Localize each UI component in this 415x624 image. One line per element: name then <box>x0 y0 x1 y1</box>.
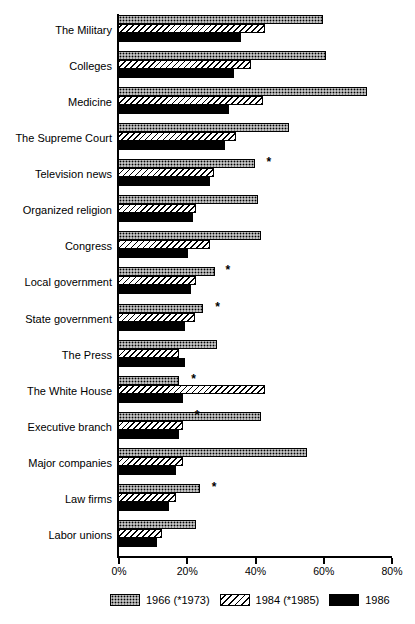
bar <box>118 421 183 430</box>
category-label: Labor unions <box>0 529 112 542</box>
category-label: Major companies <box>0 457 112 470</box>
bar <box>118 313 195 322</box>
bar <box>118 457 183 466</box>
category-label: Television news <box>0 168 112 181</box>
x-tick-label: 40% <box>245 565 266 577</box>
category-label: State government <box>0 313 112 326</box>
x-tick-label: 60% <box>313 565 334 577</box>
bar <box>118 249 188 258</box>
category-label: Organized religion <box>0 204 112 217</box>
category-label: The Supreme Court <box>0 132 112 145</box>
bar <box>118 304 203 313</box>
bar <box>118 69 234 78</box>
category-label: Law firms <box>0 493 112 506</box>
category-row: Law firms* <box>0 483 415 519</box>
category-label: Congress <box>0 240 112 253</box>
x-tick <box>186 558 188 564</box>
category-row: The Military <box>0 14 415 50</box>
legend-label: 1966 (*1973) <box>146 594 210 606</box>
category-row: Executive branch* <box>0 411 415 447</box>
category-label: Executive branch <box>0 421 112 434</box>
legend-label: 1986 <box>365 594 389 606</box>
bar <box>118 240 210 249</box>
legend-swatch <box>110 594 140 606</box>
bar <box>118 213 193 222</box>
bar-chart: 0%20%40%60%80% 1966 (*1973)1984 (*1985)1… <box>0 0 415 624</box>
bar <box>118 430 179 439</box>
bar <box>118 448 307 457</box>
category-row: The White House* <box>0 375 415 411</box>
bar <box>118 394 183 403</box>
x-tick <box>255 558 257 564</box>
bar <box>118 484 200 493</box>
category-row: The Supreme Court <box>0 122 415 158</box>
asterisk-annotation: * <box>225 264 230 276</box>
x-tick-label: 0% <box>111 565 126 577</box>
legend-item: 1966 (*1973) <box>110 594 210 606</box>
bar <box>118 132 236 141</box>
x-tick <box>323 558 325 564</box>
category-label: Medicine <box>0 96 112 109</box>
legend-item: 1984 (*1985) <box>220 594 320 606</box>
bar <box>118 493 176 502</box>
legend-swatch <box>329 594 359 606</box>
bar <box>118 358 185 367</box>
bar <box>118 60 251 69</box>
x-tick <box>391 558 393 564</box>
category-row: Colleges <box>0 50 415 86</box>
bar <box>118 349 179 358</box>
asterisk-annotation: * <box>191 373 196 385</box>
bar <box>118 24 265 33</box>
category-row: Major companies <box>0 447 415 483</box>
category-row: Medicine <box>0 86 415 122</box>
chart-legend: 1966 (*1973)1984 (*1985)1986 <box>110 594 390 606</box>
bar <box>118 376 179 385</box>
category-label: Local government <box>0 276 112 289</box>
bar <box>118 529 162 538</box>
category-row: Organized religion <box>0 194 415 230</box>
bar <box>118 276 196 285</box>
category-row: Labor unions <box>0 519 415 555</box>
bar <box>118 123 289 132</box>
bar <box>118 340 217 349</box>
bar <box>118 466 176 475</box>
category-label: Colleges <box>0 60 112 73</box>
bar <box>118 177 210 186</box>
bar <box>118 105 229 114</box>
category-label: The Military <box>0 24 112 37</box>
bar <box>118 502 169 511</box>
bar <box>118 285 191 294</box>
bar <box>118 87 367 96</box>
category-row: Congress <box>0 230 415 266</box>
category-row: Local government* <box>0 266 415 302</box>
category-row: Television news* <box>0 158 415 194</box>
bar <box>118 204 196 213</box>
bar <box>118 168 214 177</box>
x-tick <box>118 558 120 564</box>
bar <box>118 267 215 276</box>
bar <box>118 322 185 331</box>
asterisk-annotation: * <box>212 481 217 493</box>
legend-swatch <box>220 594 250 606</box>
bar <box>118 195 258 204</box>
bar <box>118 520 196 529</box>
bar <box>118 159 255 168</box>
asterisk-annotation: * <box>266 156 271 168</box>
bar <box>118 385 265 394</box>
legend-item: 1986 <box>329 594 389 606</box>
category-label: The Press <box>0 349 112 362</box>
bar <box>118 412 261 421</box>
bar <box>118 231 261 240</box>
asterisk-annotation: * <box>215 301 220 313</box>
bar <box>118 96 263 105</box>
category-row: State government* <box>0 303 415 339</box>
bar <box>118 538 157 547</box>
category-row: The Press <box>0 339 415 375</box>
bar <box>118 33 241 42</box>
category-label: The White House <box>0 385 112 398</box>
legend-label: 1984 (*1985) <box>256 594 320 606</box>
x-tick-label: 80% <box>381 565 402 577</box>
bar <box>118 141 225 150</box>
bar <box>118 51 326 60</box>
x-tick-label: 20% <box>177 565 198 577</box>
